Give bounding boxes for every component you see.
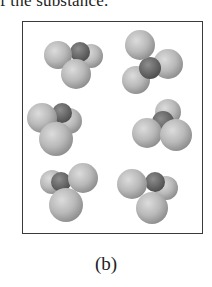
central-atom <box>145 172 165 192</box>
outer-atom <box>136 192 168 224</box>
outer-atom <box>132 118 162 148</box>
figure-caption: (b) <box>0 253 212 275</box>
outer-atom <box>125 30 155 60</box>
molecule-5 <box>40 163 98 222</box>
central-atom <box>139 57 161 79</box>
molecule-1 <box>44 41 103 89</box>
outer-atom <box>117 169 147 199</box>
molecule-6 <box>117 169 178 224</box>
molecule-3 <box>27 103 82 156</box>
molecule-2 <box>122 30 183 94</box>
molecules-canvas <box>0 0 212 287</box>
molecule-group <box>27 30 192 224</box>
outer-atom <box>68 163 98 193</box>
outer-atom <box>49 188 83 222</box>
outer-atom <box>61 59 91 89</box>
central-atom <box>70 42 90 62</box>
molecule-4 <box>132 99 192 151</box>
outer-atom <box>160 119 192 151</box>
outer-atom <box>39 122 73 156</box>
